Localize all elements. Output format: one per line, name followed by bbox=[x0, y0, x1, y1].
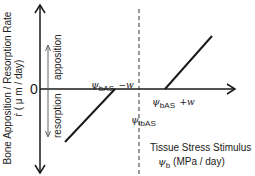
psi-symbol: ψ bbox=[131, 114, 139, 125]
upper-threshold-label: ψbAS +w bbox=[152, 92, 195, 108]
upper-threshold-subscript: bAS bbox=[160, 101, 175, 110]
x-axis-unit: (MPa / day) bbox=[173, 156, 225, 167]
y-axis-label-line1: Bone Apposition / Resorption Rate bbox=[2, 12, 13, 165]
apposition-response-line bbox=[165, 36, 212, 89]
y-axis-label: Bone Apposition / Resorption Rate ṙ ( μ … bbox=[2, 12, 24, 165]
reference-stimulus-subscript: ibAS bbox=[139, 119, 156, 128]
origin-label: 0 bbox=[30, 82, 38, 96]
resorption-response-line bbox=[65, 89, 115, 142]
psi-symbol: ψ bbox=[152, 96, 160, 107]
x-axis bbox=[40, 84, 235, 94]
x-axis-label-line2: ψb (MPa / day) bbox=[158, 157, 225, 167]
apposition-label: apposition bbox=[52, 34, 63, 80]
apposition-resorption-arrow bbox=[46, 45, 51, 137]
lower-threshold-suffix: −w bbox=[118, 80, 133, 90]
x-axis-label-line1: Tissue Stress Stimulus bbox=[150, 143, 251, 153]
upper-threshold-suffix: +w bbox=[179, 97, 194, 107]
y-axis-label-line2: ṙ ( μ m / day) bbox=[13, 12, 24, 165]
x-axis-subscript: b bbox=[166, 161, 170, 170]
lower-threshold-label: ψbAS −w bbox=[91, 75, 134, 91]
resorption-label: resorption bbox=[52, 94, 63, 138]
lower-threshold-subscript: bAS bbox=[99, 84, 114, 93]
psi-symbol: ψ bbox=[158, 156, 166, 167]
psi-symbol: ψ bbox=[91, 79, 99, 90]
reference-stimulus-label: ψibAS bbox=[131, 110, 156, 126]
